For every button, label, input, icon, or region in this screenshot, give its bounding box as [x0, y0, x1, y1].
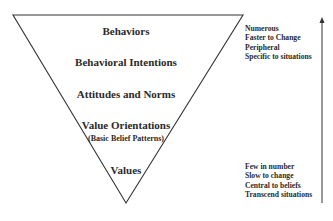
level-behaviors: Behaviors — [78, 25, 174, 37]
arrow-up-icon — [320, 17, 325, 23]
level-values: Values — [86, 164, 166, 176]
descriptor-numerous: Numerous — [245, 24, 312, 33]
level-value-orientations: Value Orientations — [70, 119, 182, 131]
descriptor-faster-to-change: Faster to Change — [245, 33, 312, 42]
descriptor-central-to-beliefs: Central to beliefs — [245, 181, 312, 190]
descriptor-transcend-situations: Transcend situations — [245, 190, 312, 199]
bottom-descriptors: Few in number Slow to change Central to … — [245, 162, 312, 199]
descriptor-specific-to-situations: Specific to situations — [245, 52, 312, 61]
level-behavioral-intentions: Behavioral Intentions — [58, 56, 194, 68]
descriptor-peripheral: Peripheral — [245, 43, 312, 52]
descriptor-few-in-number: Few in number — [245, 162, 312, 171]
top-descriptors: Numerous Faster to Change Peripheral Spe… — [245, 24, 312, 61]
level-attitudes-norms: Attitudes and Norms — [63, 88, 189, 100]
level-value-orientations-sublabel: (Basic Belief Patterns) — [70, 134, 182, 143]
descriptor-slow-to-change: Slow to change — [245, 171, 312, 180]
